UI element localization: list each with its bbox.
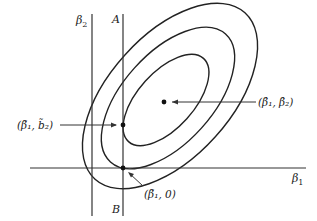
beta2-axis-label: β2 <box>75 14 87 29</box>
arrow-ols <box>172 100 256 105</box>
arrow-constrained <box>60 123 117 128</box>
diagram-canvas: β2 A B β1 (β̂₁, β̂₂) (β̃₁, b̃₂) (β̃₁, 0) <box>0 0 317 221</box>
label-constrained-estimate: (β̃₁, b̃₂) <box>17 118 53 131</box>
line-label-A: A <box>111 13 120 26</box>
point-restricted-estimate <box>121 166 126 171</box>
inner-ellipse <box>108 40 225 161</box>
arrow-restricted <box>128 172 143 186</box>
beta1-axis-label: β1 <box>291 172 303 187</box>
label-ols-estimate: (β̂₁, β̂₂) <box>258 96 293 108</box>
label-restricted-estimate: (β̃₁, 0) <box>144 188 176 200</box>
point-ols-estimate <box>162 100 167 105</box>
line-label-B: B <box>111 203 120 216</box>
point-constrained-estimate <box>121 123 126 128</box>
middle-ellipse <box>77 4 259 192</box>
